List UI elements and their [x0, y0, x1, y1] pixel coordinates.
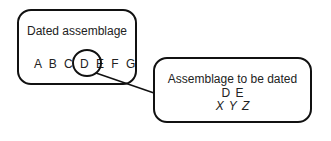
shared-letters: D E	[153, 86, 312, 100]
highlight-circle	[73, 50, 101, 76]
connector-line	[96, 73, 154, 93]
new-letters: X Y Z	[153, 99, 312, 113]
assemblage-to-be-dated-title: Assemblage to be dated	[153, 72, 312, 86]
